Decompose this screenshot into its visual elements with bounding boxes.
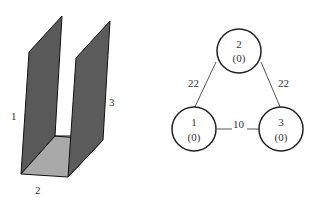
plate-3-label: 3	[109, 96, 115, 108]
node-2-value: (0)	[233, 52, 246, 65]
u-channel-figure: 1 2 3	[11, 16, 115, 196]
node-1	[172, 107, 216, 151]
plate-1-label: 1	[11, 110, 17, 122]
node-1-label: 1	[191, 116, 197, 128]
edge-1-2-weight: 22	[188, 77, 199, 89]
plate-3-wall	[68, 21, 110, 177]
node-1-value: (0)	[188, 131, 201, 144]
node-2	[217, 29, 261, 73]
graph-figure: 22 22 10 2 (0) 1 (0) 3 (0)	[172, 29, 303, 151]
node-2-label: 2	[236, 38, 242, 50]
edge-1-3-weight: 10	[233, 118, 245, 130]
node-3-value: (0)	[275, 131, 288, 144]
node-3-label: 3	[278, 116, 284, 128]
node-3	[259, 107, 303, 151]
edge-2-3-weight: 22	[278, 77, 289, 89]
diagram-canvas: 1 2 3 22 22 10 2 (0) 1 (0) 3 (0)	[0, 0, 316, 202]
plate-2-label: 2	[35, 184, 41, 196]
